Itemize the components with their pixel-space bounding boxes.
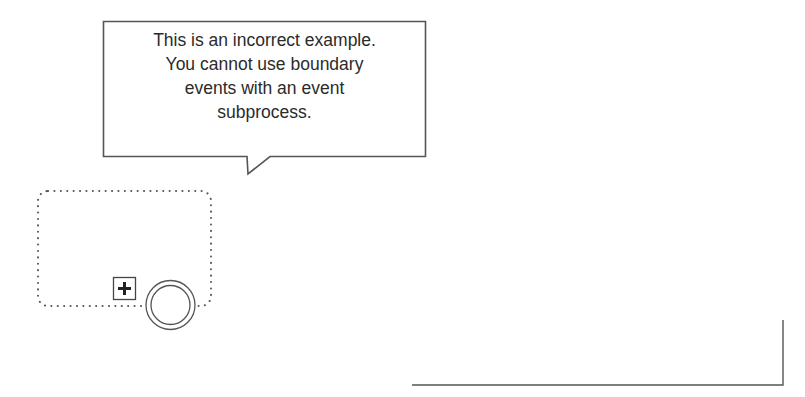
corner-line bbox=[412, 320, 783, 385]
callout-text: This is an incorrect example. You cannot… bbox=[104, 28, 425, 124]
callout-line-2: You cannot use boundary bbox=[104, 52, 425, 76]
boundary-event-icon[interactable] bbox=[146, 281, 195, 330]
callout-line-3: events with an event bbox=[104, 76, 425, 100]
callout-line-1: This is an incorrect example. bbox=[104, 28, 425, 52]
callout-line-4: subprocess. bbox=[104, 100, 425, 124]
collapsed-marker-plus-icon[interactable] bbox=[114, 278, 136, 300]
